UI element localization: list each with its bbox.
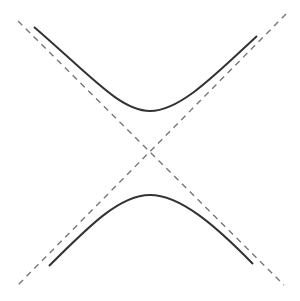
lower-branch-curve <box>49 195 253 266</box>
asymptote-ascending <box>17 14 286 286</box>
upper-branch-curve <box>34 27 257 111</box>
hyperbola-diagram <box>0 0 300 301</box>
